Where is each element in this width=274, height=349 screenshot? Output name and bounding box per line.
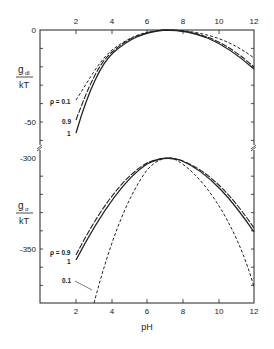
bottom-legend-rho-0.9: ρ = 0.9 — [50, 249, 71, 257]
top-x-axis: 2 4 6 8 10 12 — [74, 17, 259, 34]
top-x-tick-6: 6 — [145, 17, 150, 26]
top-ylabel-kT: kT — [19, 80, 30, 90]
plot-frame — [40, 30, 254, 303]
top-y-tick-minus50: -50 — [24, 118, 36, 127]
top-x-tick-12: 12 — [250, 17, 259, 26]
top-y-tick-0: 0 — [32, 26, 37, 35]
top-curve-rho-0.9 — [76, 30, 254, 120]
bottom-y-tick-minus300: -300 — [20, 154, 37, 163]
bottom-ylabel-g: g — [18, 200, 24, 211]
top-x-tick-4: 4 — [110, 17, 115, 26]
bottom-x-tick-12: 12 — [250, 307, 259, 316]
bottom-x-tick-10: 10 — [215, 307, 224, 316]
bottom-x-tick-2: 2 — [74, 307, 79, 316]
bottom-y-axis — [40, 158, 254, 285]
top-ylabel-g: g — [18, 64, 24, 75]
top-y-axis-label: g dl kT — [16, 64, 33, 90]
bottom-panel-curves — [76, 158, 254, 303]
top-panel-curves — [76, 30, 254, 133]
bottom-legend-rho-0.1: 0.1 — [62, 277, 71, 284]
top-legend-rho-0.1: ρ = 0.1 — [50, 98, 71, 106]
top-y-axis — [40, 48, 254, 140]
bottom-x-axis: 2 4 6 8 10 12 pH — [74, 299, 259, 332]
bottom-curve-rho-0.9 — [76, 158, 254, 255]
bottom-legend-rho-1: 1 — [67, 258, 71, 265]
top-x-tick-10: 10 — [215, 17, 224, 26]
top-x-tick-2: 2 — [74, 17, 79, 26]
top-ylabel-sub: dl — [25, 70, 30, 76]
top-legend-rho-1: 1 — [67, 130, 71, 137]
bottom-y-tick-minus350: -350 — [20, 245, 37, 254]
bottom-x-tick-8: 8 — [181, 307, 186, 316]
bottom-x-tick-6: 6 — [145, 307, 150, 316]
chart-canvas: 2 4 6 8 10 12 2 4 6 8 10 12 pH 0 -50 g d… — [0, 0, 274, 349]
top-legend-rho-0.9: 0.9 — [62, 118, 71, 125]
bottom-y-axis-label: g σ kT — [16, 200, 33, 226]
axis-break-marks — [37, 145, 256, 151]
legend-leader-line — [75, 281, 92, 290]
top-x-tick-8: 8 — [181, 17, 186, 26]
top-curve-rho-1 — [76, 30, 254, 133]
x-axis-label: pH — [141, 322, 153, 332]
bottom-ylabel-sub: σ — [25, 206, 29, 212]
bottom-curve-rho-0.1 — [94, 158, 254, 303]
bottom-x-tick-4: 4 — [110, 307, 115, 316]
bottom-ylabel-kT: kT — [19, 216, 30, 226]
